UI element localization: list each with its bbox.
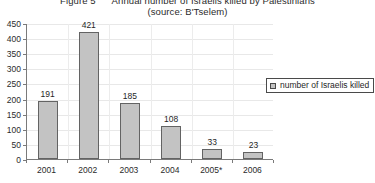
y-axis-tick-label: 150: [7, 110, 21, 120]
y-axis-tick: 450: [0, 24, 26, 25]
chart-title-block: Figure 5 Annual number of Israelis kille…: [0, 0, 375, 17]
x-axis-tick-mark: [273, 160, 274, 163]
x-axis-tick-label: 2004: [150, 165, 190, 175]
y-axis-tick-label: 450: [7, 19, 21, 29]
x-axis-tick-mark: [232, 160, 233, 163]
plot-area: 1914211851083323: [26, 24, 273, 160]
bar-value-label: 185: [116, 91, 144, 101]
x-axis-tick-mark: [108, 160, 109, 163]
y-axis-tick-label: 300: [7, 64, 21, 74]
bar-2004: [161, 126, 181, 159]
bar-value-label: 108: [157, 114, 185, 124]
x-axis-tick-label: 2002: [68, 165, 108, 175]
x-axis-tick-label: 2003: [109, 165, 149, 175]
bar-chart: Figure 5 Annual number of Israelis kille…: [0, 0, 375, 183]
y-axis-tick-label: 200: [7, 95, 21, 105]
y-axis-tick: 0: [0, 160, 26, 161]
bar-value-label: 191: [34, 89, 62, 99]
y-axis-tick: 150: [0, 115, 26, 116]
y-axis-tick-label: 250: [7, 79, 21, 89]
y-axis-tick-label: 350: [7, 49, 21, 59]
x-axis-tick-mark: [26, 160, 27, 163]
y-axis-tick: 400: [0, 39, 26, 40]
bar-value-label: 33: [198, 137, 226, 147]
y-axis: 450400350300250200150100500: [0, 24, 26, 161]
legend-swatch-icon: [270, 83, 276, 89]
y-axis-tick: 100: [0, 130, 26, 131]
y-axis-tick-label: 50: [12, 140, 21, 150]
chart-legend: number of Israelis killed: [266, 78, 374, 93]
x-axis-tick-label: 2005*: [191, 165, 231, 175]
legend-label: number of Israelis killed: [280, 81, 369, 90]
y-axis-tick-label: 100: [7, 125, 21, 135]
bar-value-label: 23: [239, 140, 267, 150]
x-axis-tick-mark: [191, 160, 192, 163]
y-axis-tick: 250: [0, 84, 26, 85]
x-axis-tick-mark: [67, 160, 68, 163]
x-axis: 20012002200320042005*2006: [26, 160, 274, 183]
bar-2002: [79, 32, 99, 159]
y-axis-tick: 350: [0, 54, 26, 55]
y-axis-tick: 50: [0, 145, 26, 146]
chart-subtitle: (source: B'Tselem): [0, 6, 375, 17]
x-axis-tick-label: 2006: [232, 165, 272, 175]
x-axis-tick-mark: [150, 160, 151, 163]
bar-2006: [243, 152, 263, 159]
x-axis-tick-label: 2001: [27, 165, 67, 175]
bar-2003: [120, 103, 140, 159]
bar-2005*: [202, 149, 222, 159]
y-axis-tick-label: 400: [7, 34, 21, 44]
bar-value-label: 421: [75, 20, 103, 30]
y-axis-tick-label: 0: [16, 155, 21, 165]
bars-layer: 1914211851083323: [27, 24, 273, 159]
y-axis-tick: 300: [0, 69, 26, 70]
bar-2001: [38, 101, 58, 159]
y-axis-tick: 200: [0, 100, 26, 101]
